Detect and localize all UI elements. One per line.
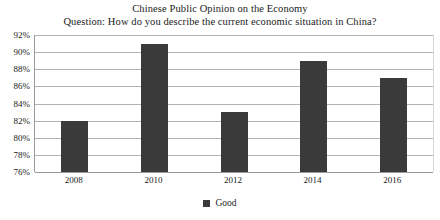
- x-axis-tick-label: 2016: [362, 175, 422, 186]
- legend-swatch-good-icon: [203, 200, 210, 207]
- bar: [221, 112, 248, 172]
- y-axis-tick-label: 82%: [0, 116, 30, 125]
- bars: [35, 35, 433, 172]
- y-axis-tick-label: 78%: [0, 150, 30, 159]
- bar: [300, 61, 327, 172]
- x-axis-tick-label: 2012: [203, 175, 263, 186]
- chart-subtitle: Question: How do you describe the curren…: [0, 15, 440, 28]
- y-axis-tick-label: 90%: [0, 48, 30, 57]
- y-axis-tick-label: 80%: [0, 133, 30, 142]
- y-axis-tick-label: 84%: [0, 99, 30, 108]
- x-axis-tick-label: 2014: [283, 175, 343, 186]
- plot-area: [34, 35, 434, 172]
- y-axis-tick-label: 76%: [0, 168, 30, 177]
- y-axis-tick-label: 86%: [0, 82, 30, 91]
- bar: [380, 78, 407, 172]
- chart-title: Chinese Public Opinion on the Economy: [0, 2, 440, 15]
- y-axis-tick-label: 88%: [0, 65, 30, 74]
- x-axis-labels: 20082010201220142016: [34, 175, 432, 189]
- gridline: [35, 172, 433, 173]
- x-axis-tick-label: 2010: [123, 175, 183, 186]
- x-axis-tick-label: 2008: [44, 175, 104, 186]
- chart-container: Chinese Public Opinion on the Economy Qu…: [0, 0, 440, 220]
- y-axis-tick-label: 92%: [0, 31, 30, 40]
- y-axis-labels: 92%90%88%86%84%82%80%78%76%: [0, 35, 30, 172]
- bar: [61, 121, 88, 172]
- bar: [141, 44, 168, 172]
- chart-legend: Good: [0, 198, 440, 208]
- chart-title-block: Chinese Public Opinion on the Economy Qu…: [0, 2, 440, 28]
- legend-label-good: Good: [215, 198, 236, 208]
